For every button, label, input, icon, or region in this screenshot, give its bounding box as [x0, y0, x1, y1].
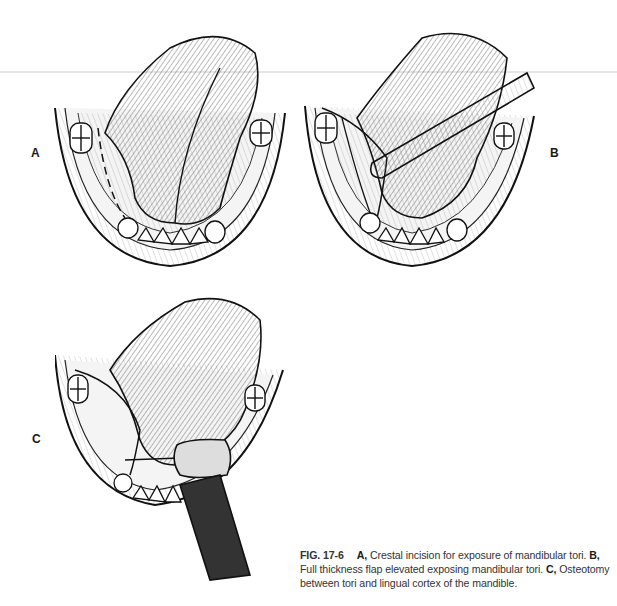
illustration-panel-a: [50, 28, 300, 273]
figure-number: FIG. 17-6: [300, 549, 344, 561]
illustration-panel-b: [302, 28, 542, 273]
caption-text-b: Full thickness flap elevated exposing ma…: [300, 563, 543, 575]
illustration-panel-c: [55, 290, 295, 590]
panel-label-c: C: [32, 432, 41, 446]
figure-caption: FIG. 17-6 A, Crestal incision for exposu…: [300, 548, 617, 590]
caption-text-a: Crestal incision for exposure of mandibu…: [370, 549, 587, 561]
caption-label-b: B,: [589, 549, 599, 561]
mandible-tongue-illustration-b: [302, 28, 542, 273]
mandible-tongue-illustration-a: [50, 28, 300, 273]
caption-label-a: A,: [357, 549, 367, 561]
panel-label-b: B: [550, 146, 559, 160]
caption-label-c: C,: [546, 563, 556, 575]
mandible-tongue-osteotomy-illustration-c: [55, 290, 295, 590]
panel-label-a: A: [31, 146, 40, 160]
